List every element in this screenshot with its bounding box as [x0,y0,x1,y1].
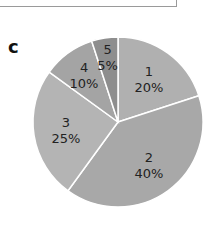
pie-label-percent: 25% [51,131,80,146]
pie-label-percent: 5% [97,58,118,73]
pie-slices [33,37,203,207]
pie-label-category: 2 [145,150,153,165]
pie-label-percent: 10% [70,76,99,91]
pie-chart: 120%240%325%410%55% [0,0,222,242]
pie-label-percent: 20% [135,80,164,95]
pie-label-category: 3 [62,115,70,130]
pie-label-category: 4 [80,60,88,75]
pie-label-category: 5 [103,42,111,57]
pie-label-percent: 40% [135,166,164,181]
pie-label-category: 1 [145,64,153,79]
